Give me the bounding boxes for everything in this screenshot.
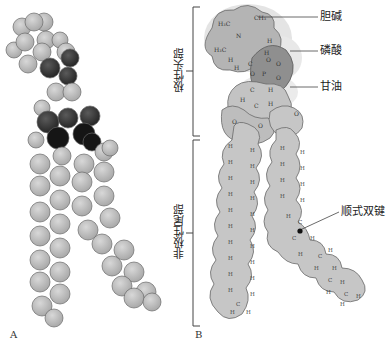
svg-text:H: H — [250, 195, 255, 201]
svg-text:H: H — [328, 247, 333, 253]
svg-text:H: H — [228, 159, 233, 165]
svg-text:H: H — [228, 175, 233, 181]
svg-text:O: O — [276, 74, 281, 81]
svg-text:C: C — [236, 301, 240, 307]
svg-text:H₃C: H₃C — [214, 46, 227, 53]
svg-text:H: H — [250, 259, 255, 265]
svg-text:C: C — [328, 277, 332, 283]
svg-text:H: H — [228, 239, 233, 245]
svg-text:H: H — [280, 193, 285, 199]
region-brackets — [186, 7, 200, 326]
svg-text:H: H — [280, 161, 285, 167]
svg-text:H: H — [240, 96, 245, 103]
cis-double-bond-label: 顺式双键 — [341, 206, 385, 218]
svg-text:H₃C: H₃C — [218, 20, 231, 27]
svg-text:N: N — [236, 32, 241, 39]
svg-text:O: O — [276, 60, 281, 67]
polar-head-label: 极性头部 — [174, 48, 186, 92]
svg-text:H: H — [228, 271, 233, 277]
glycerol-label: 甘油 — [320, 81, 342, 93]
svg-text:H: H — [250, 211, 255, 217]
svg-text:H: H — [246, 309, 251, 315]
svg-text:C: C — [292, 235, 296, 241]
svg-text:H: H — [230, 309, 235, 315]
svg-text:H: H — [228, 287, 233, 293]
svg-text:H: H — [300, 149, 305, 155]
svg-text:H: H — [250, 243, 255, 249]
svg-text:O: O — [232, 118, 237, 125]
svg-text:H: H — [250, 291, 255, 297]
svg-text:H: H — [356, 293, 361, 299]
svg-text:H: H — [332, 265, 337, 271]
svg-text:C: C — [298, 219, 302, 225]
svg-text:H: H — [228, 207, 233, 213]
svg-text:C: C — [248, 60, 253, 67]
svg-text:H: H — [250, 147, 255, 153]
phosphate-label: 磷酸 — [320, 45, 342, 57]
svg-text:H: H — [286, 213, 291, 219]
svg-text:H: H — [340, 301, 345, 307]
svg-text:O: O — [250, 70, 255, 77]
panel-a-label: A — [10, 329, 17, 340]
svg-text:H: H — [250, 275, 255, 281]
svg-text:H: H — [326, 289, 331, 295]
svg-text:H: H — [298, 251, 303, 257]
svg-text:H: H — [340, 279, 345, 285]
svg-text:H: H — [300, 181, 305, 187]
svg-text:H: H — [314, 265, 319, 271]
svg-text:H: H — [228, 56, 233, 63]
svg-text:C: C — [344, 291, 348, 297]
svg-text:C: C — [254, 102, 259, 109]
svg-text:O: O — [266, 56, 271, 63]
svg-text:C: C — [250, 86, 255, 93]
svg-text:O: O — [294, 110, 299, 117]
panel-b-label: B — [195, 329, 202, 340]
choline-label: 胆碱 — [320, 11, 342, 23]
svg-text:H: H — [228, 191, 233, 197]
svg-text:H: H — [267, 37, 272, 44]
svg-text:C: C — [318, 253, 322, 259]
svg-text:H: H — [250, 163, 255, 169]
svg-text:H: H — [250, 227, 255, 233]
svg-text:H: H — [300, 197, 305, 203]
svg-text:H: H — [228, 223, 233, 229]
svg-text:H: H — [310, 235, 315, 241]
svg-text:CH₃: CH₃ — [254, 14, 267, 21]
svg-text:H: H — [234, 64, 239, 71]
svg-text:H: H — [228, 255, 233, 261]
svg-text:H: H — [250, 179, 255, 185]
svg-text:H: H — [300, 165, 305, 171]
svg-text:H: H — [268, 100, 273, 107]
svg-text:P: P — [262, 70, 266, 77]
svg-text:O: O — [258, 122, 263, 129]
svg-text:H: H — [264, 49, 269, 56]
svg-text:H: H — [228, 143, 233, 149]
nonpolar-tail-label: 非极性尾部 — [174, 204, 186, 259]
svg-text:H: H — [268, 86, 273, 93]
svg-text:H: H — [280, 177, 285, 183]
svg-text:H: H — [280, 145, 285, 151]
